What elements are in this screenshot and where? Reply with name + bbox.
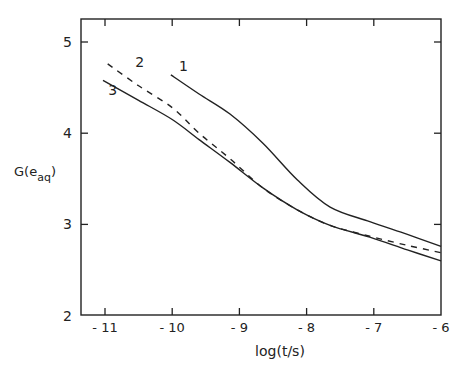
x-tick-label: - 7 [365, 320, 382, 335]
curves [103, 64, 441, 261]
x-tick-label: - 6 [432, 320, 449, 335]
y-tick-label: 4 [63, 125, 72, 141]
x-axis-label: log(t/s) [255, 343, 305, 359]
x-tick-label: - 11 [92, 320, 117, 335]
chart: - 11- 10- 9- 8- 7- 62345 123 log(t/s) [0, 0, 460, 373]
curve-2 [108, 64, 441, 253]
tick-labels: - 11- 10- 9- 8- 7- 62345 [63, 34, 449, 335]
curve-3 [103, 80, 441, 261]
curve-label-1: 1 [179, 58, 188, 74]
y-tick-label: 3 [63, 216, 72, 232]
y-axis-label: G(eaq) [14, 164, 56, 183]
curve-label-2: 2 [135, 54, 144, 70]
y-tick-label: 2 [63, 308, 72, 324]
curve-label-3: 3 [108, 82, 117, 98]
x-tick-label: - 8 [298, 320, 315, 335]
x-tick-label: - 10 [160, 320, 185, 335]
y-tick-label: 5 [63, 34, 72, 50]
curve-1 [171, 75, 441, 246]
x-tick-label: - 9 [231, 320, 248, 335]
